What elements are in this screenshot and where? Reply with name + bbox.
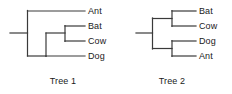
tree2-tip-label-bat: Bat — [199, 7, 213, 16]
tree-1-caption: Tree 1 — [40, 77, 86, 86]
tree2-tip-label-ant: Ant — [199, 52, 213, 61]
tree-1-branches — [10, 11, 85, 57]
tree-2-caption: Tree 2 — [149, 77, 195, 86]
tree2-tip-label-dog: Dog — [199, 37, 216, 46]
tree-2-branches — [136, 11, 196, 57]
tree1-tip-label-ant: Ant — [88, 7, 102, 16]
tree1-tip-label-dog: Dog — [88, 52, 105, 61]
phylogenetic-tree-figure: Ant Bat Cow Dog Bat Cow Dog Ant Tree 1 T… — [0, 0, 232, 94]
tree1-tip-label-bat: Bat — [88, 22, 102, 31]
tree1-tip-label-cow: Cow — [88, 37, 106, 46]
tree2-tip-label-cow: Cow — [199, 22, 217, 31]
tree-branches-svg — [0, 0, 232, 94]
